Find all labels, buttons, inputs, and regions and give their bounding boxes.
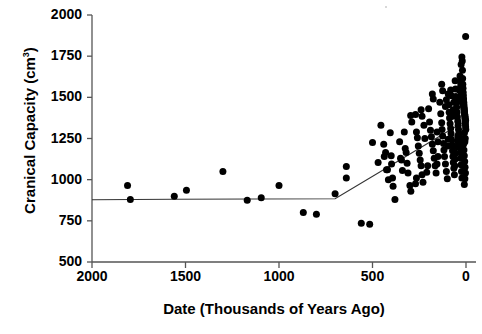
data-point [219,168,226,175]
data-point [436,99,443,106]
data-point [429,91,436,98]
data-point [445,136,452,143]
data-point [419,113,426,120]
data-point [407,188,414,195]
data-point [434,161,441,168]
plot-canvas [0,0,482,334]
data-point [462,117,469,124]
y-axis-ticks [87,15,92,262]
data-point [437,110,444,117]
data-point [438,81,445,88]
data-point [451,171,458,178]
data-point [461,138,468,145]
data-point [418,106,425,113]
data-point [390,183,397,190]
data-point [458,61,465,68]
data-point [444,175,451,182]
data-point [343,175,350,182]
data-point [427,127,434,134]
data-point [414,134,421,141]
data-point [366,221,373,228]
data-point [458,53,465,60]
data-point [415,142,422,149]
data-point [244,197,251,204]
data-point [369,139,376,146]
data-point [404,160,411,167]
data-point [343,163,350,170]
data-point [391,196,398,203]
data-point [401,128,408,135]
data-point [405,170,412,177]
data-point [439,87,446,94]
data-point [450,106,457,113]
data-point [424,162,431,169]
data-point [452,156,459,163]
data-point [388,152,395,159]
data-point [388,161,395,168]
data-point [456,86,463,93]
data-point [380,141,387,148]
data-point [384,166,391,173]
data-point [416,150,423,157]
data-point [454,143,461,150]
data-point [443,96,450,103]
data-point [396,138,403,145]
data-point [403,149,410,156]
data-point [428,133,435,140]
data-point [443,168,450,175]
data-point [313,211,320,218]
data-point [258,194,265,201]
data-point [332,190,339,197]
data-point [434,153,441,160]
data-point [457,72,464,79]
data-point [387,129,394,136]
data-point [433,170,440,177]
data-point [183,187,190,194]
data-point [442,103,449,110]
data-point [358,220,365,227]
data-point [375,159,382,166]
data-point [124,182,131,189]
cranial-capacity-scatter-chart: Cranical Capacity (cm3) Date (Thousands … [0,0,482,334]
data-point [451,162,458,169]
x-axis-ticks [92,262,466,268]
data-point [450,99,457,106]
data-point [171,193,178,200]
data-point [426,119,433,126]
data-point [408,119,415,126]
data-point [442,161,449,168]
data-point [462,33,469,40]
data-point [449,113,456,120]
data-point [412,180,419,187]
data-point [300,209,307,216]
data-point [461,181,468,188]
data-point [439,126,446,133]
data-point [430,147,437,154]
data-point [438,119,445,126]
data-point [444,142,451,149]
data-point [127,196,134,203]
axes-group [87,15,476,268]
data-point [421,135,428,142]
data-point [423,169,430,176]
data-point [418,162,425,169]
data-point [389,175,396,182]
data-point [377,122,384,129]
data-point [276,182,283,189]
data-point [419,179,426,186]
data-point [461,129,468,136]
data-point [441,153,448,160]
data-point [447,86,454,93]
data-point [407,112,414,119]
data-point [425,105,432,112]
